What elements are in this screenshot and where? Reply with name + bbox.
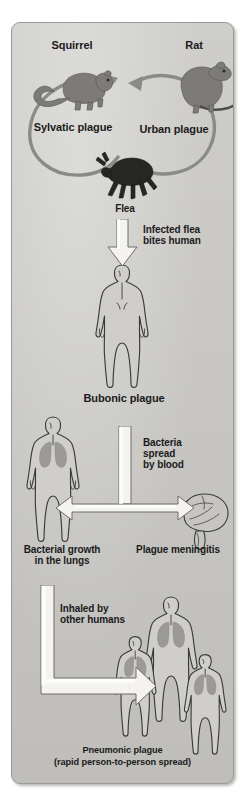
label-bubonic-plague: Bubonic plague bbox=[67, 392, 181, 404]
label-squirrel: Squirrel bbox=[34, 39, 110, 51]
label-inhaled-by-other-humans: Inhaled by other humans bbox=[60, 603, 146, 625]
squirrel-icon bbox=[30, 61, 114, 113]
label-bacteria-spread-by-blood: Bacteria spread by blood bbox=[143, 437, 227, 471]
label-plague-meningitis: Plague meningitis bbox=[126, 544, 230, 555]
label-infected-flea-bites-human: Infected flea bites human bbox=[143, 224, 229, 246]
human-figure-icon bbox=[93, 263, 151, 391]
label-pneumonic-plague: Pneumonic plague (rapid person-to-person… bbox=[20, 745, 225, 768]
figure-root: Squirrel Rat Sylvatic plague Urban plagu… bbox=[0, 0, 246, 806]
rat-icon bbox=[160, 61, 234, 119]
label-rat: Rat bbox=[164, 39, 224, 51]
flea-icon bbox=[94, 151, 160, 201]
label-sylvatic-plague: Sylvatic plague bbox=[18, 121, 128, 133]
infected-flea-arrow bbox=[106, 219, 140, 267]
label-urban-plague: Urban plague bbox=[122, 123, 226, 135]
diagram-panel: Squirrel Rat Sylvatic plague Urban plagu… bbox=[11, 22, 234, 784]
label-flea: Flea bbox=[100, 203, 150, 214]
label-bacterial-growth-in-the-lungs: Bacterial growth in the lungs bbox=[14, 544, 110, 566]
